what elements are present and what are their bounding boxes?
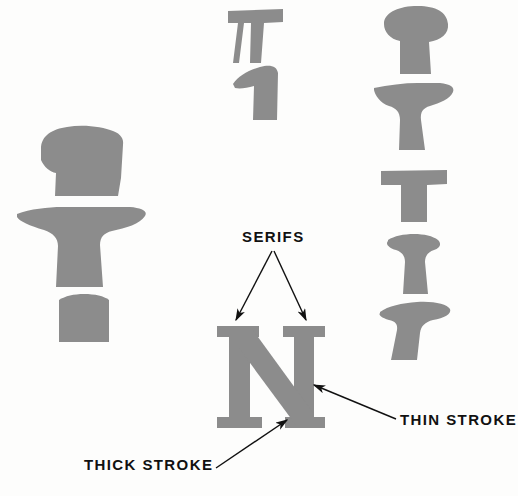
serifs-label: SERIFS xyxy=(242,228,305,245)
thick-stroke-label: THICK STROKE xyxy=(84,456,213,473)
left-column-specimen-3 xyxy=(59,294,109,342)
thin-stroke-label: THIN STROKE xyxy=(400,411,517,428)
figure-canvas: SERIFS THIN STROKE THICK STROKE xyxy=(0,0,518,496)
